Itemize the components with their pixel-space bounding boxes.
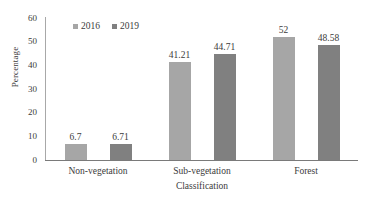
x-axis-category-label: Sub-vegetation	[150, 165, 254, 177]
bar-2016-Non-vegetation[interactable]	[65, 144, 87, 160]
y-axis-tick: 60	[28, 14, 37, 23]
legend-item-2019[interactable]: 2019	[112, 21, 139, 31]
bar-groups: 6.76.7141.2144.715248.58	[46, 18, 358, 160]
bar-group: 6.76.71	[46, 18, 150, 160]
bar-2019-Non-vegetation[interactable]	[110, 144, 132, 160]
bar-slot: 41.21	[169, 18, 191, 160]
x-axis-category-label: Non-vegetation	[46, 165, 150, 177]
x-axis-category-labels: Non-vegetationSub-vegetationForest	[46, 165, 358, 179]
bar-value-label: 6.71	[112, 132, 129, 142]
legend-item-2016[interactable]: 2016	[73, 21, 100, 31]
bar-2019-Sub-vegetation[interactable]	[214, 54, 236, 160]
y-axis-tick: 20	[28, 108, 37, 117]
bar-slot: 52	[273, 18, 295, 160]
bar-slot: 48.58	[318, 18, 340, 160]
bar-chart: Percentage 0102030405060 6.76.7141.2144.…	[0, 0, 368, 201]
legend: 20162019	[73, 21, 139, 31]
legend-swatch-icon	[73, 24, 78, 29]
y-axis-tick: 10	[28, 132, 37, 141]
bar-value-label: 52	[279, 25, 289, 35]
y-axis-tick: 50	[28, 37, 37, 46]
bar-value-label: 41.21	[169, 50, 190, 60]
y-axis-tick: 0	[33, 156, 38, 165]
bar-slot: 44.71	[214, 18, 236, 160]
bar-group: 5248.58	[254, 18, 358, 160]
bar-2016-Sub-vegetation[interactable]	[169, 62, 191, 160]
bar-2019-Forest[interactable]	[318, 45, 340, 160]
legend-label: 2016	[81, 21, 100, 31]
legend-label: 2019	[120, 21, 139, 31]
x-axis-line	[45, 160, 358, 161]
bar-value-label: 44.71	[214, 42, 235, 52]
y-axis-tick: 40	[28, 61, 37, 70]
bar-value-label: 48.58	[318, 33, 339, 43]
bar-value-label: 6.7	[70, 132, 82, 142]
bar-group: 41.2144.71	[150, 18, 254, 160]
y-axis-tick-labels: 0102030405060	[0, 0, 44, 201]
bar-2016-Forest[interactable]	[273, 37, 295, 160]
bar-slot: 6.7	[65, 18, 87, 160]
x-axis-title: Classification	[46, 180, 358, 192]
y-axis-tick: 30	[28, 85, 37, 94]
x-axis-category-label: Forest	[254, 165, 358, 177]
bar-slot: 6.71	[110, 18, 132, 160]
legend-swatch-icon	[112, 24, 117, 29]
plot-area: 6.76.7141.2144.715248.58	[46, 18, 358, 160]
